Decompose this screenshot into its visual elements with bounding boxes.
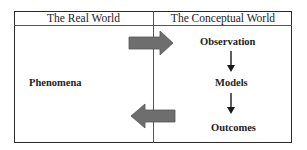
left-block-arrow-icon	[131, 104, 175, 128]
arrows-layer	[0, 0, 307, 150]
down-arrow-icon	[227, 51, 235, 72]
right-block-arrow-icon	[129, 31, 173, 55]
down-arrow-icon	[227, 93, 235, 114]
